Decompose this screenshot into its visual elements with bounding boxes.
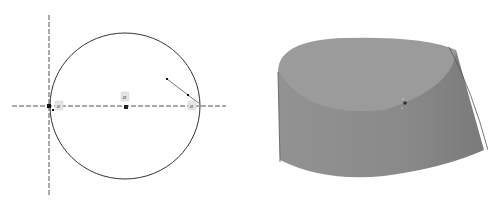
- constraint-badge-label: ⌀: [57, 102, 61, 109]
- sketch-canvas[interactable]: ⌀ ⌀ ⌀: [0, 0, 244, 203]
- constraint-badge-label: ⌀: [123, 93, 127, 100]
- sketch-point[interactable]: [187, 94, 189, 96]
- constraint-badge-label: ⌀: [190, 102, 194, 109]
- center-marker-dot: [402, 98, 404, 100]
- constraint-badge[interactable]: ⌀: [188, 101, 196, 110]
- center-marker-dot: [401, 107, 403, 109]
- center-marker-icon[interactable]: [403, 101, 407, 105]
- center-point[interactable]: [124, 105, 128, 109]
- constraint-badge[interactable]: ⌀: [55, 101, 63, 110]
- sketch-point[interactable]: [166, 78, 168, 80]
- sketch-point[interactable]: [52, 109, 54, 111]
- 3d-model-view[interactable]: [244, 0, 488, 203]
- sketch-segment[interactable]: [167, 79, 200, 104]
- sketch-view[interactable]: ⌀ ⌀ ⌀: [0, 0, 244, 203]
- model-canvas[interactable]: [244, 0, 488, 203]
- constraint-badge[interactable]: ⌀: [121, 92, 129, 101]
- sketch-point[interactable]: [47, 104, 51, 108]
